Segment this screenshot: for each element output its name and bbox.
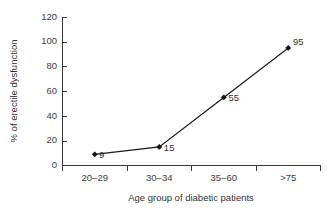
- x-tick-label-0: 20–29: [82, 172, 108, 183]
- x-axis-ticks: [63, 166, 321, 172]
- y-tick-label-120: 120: [41, 11, 57, 22]
- x-tick-label-2: 35–60: [211, 172, 237, 183]
- x-axis-title: Age group of diabetic patients: [128, 192, 254, 203]
- chart-figure: 120 100 80 60 40 20 0 20–29 30–34 35–60 …: [0, 0, 330, 211]
- point-label-0: 9: [99, 149, 104, 160]
- series-line: [95, 48, 289, 154]
- point-label-1: 15: [164, 142, 175, 153]
- x-tick-label-3: >75: [280, 172, 296, 183]
- y-tick-label-60: 60: [46, 85, 57, 96]
- y-axis-title: % of erectile dysfunction: [8, 40, 19, 143]
- y-tick-label-40: 40: [46, 110, 57, 121]
- x-tick-label-1: 30–34: [146, 172, 172, 183]
- y-tick-label-20: 20: [46, 134, 57, 145]
- point-label-2: 55: [229, 92, 240, 103]
- y-tick-label-100: 100: [41, 35, 57, 46]
- point-label-3: 95: [293, 36, 304, 47]
- y-tick-label-0: 0: [52, 159, 57, 170]
- data-point-marker-0: [92, 152, 97, 157]
- y-tick-label-80: 80: [46, 60, 57, 71]
- data-markers: [92, 45, 291, 157]
- y-axis-ticks: [63, 18, 68, 166]
- chart-canvas: 120 100 80 60 40 20 0 20–29 30–34 35–60 …: [0, 0, 330, 211]
